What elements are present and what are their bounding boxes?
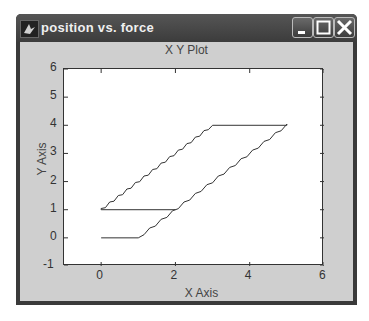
y-tick-label: 0 [50, 229, 57, 243]
window-title: position vs. force [41, 20, 154, 35]
plot-axes[interactable] [63, 68, 323, 265]
close-icon [335, 18, 354, 37]
x-tick-label: 2 [170, 268, 177, 282]
x-tick-label: 4 [245, 268, 252, 282]
y-axis-label: Y Axis [35, 129, 49, 189]
y-tick-label: 6 [50, 60, 57, 74]
maximize-button[interactable] [313, 17, 334, 38]
x-tick-label: 6 [319, 268, 326, 282]
plot-title: X Y Plot [20, 43, 353, 57]
plot-canvas [64, 69, 324, 266]
y-tick-label: 1 [50, 201, 57, 215]
matlab-figure-icon [20, 20, 39, 38]
y-tick-label: 2 [50, 173, 57, 187]
close-button[interactable] [334, 17, 355, 38]
y-tick-label: 4 [50, 116, 57, 130]
x-tick-label: 0 [96, 268, 103, 282]
minimize-icon [293, 18, 312, 37]
y-tick-label: -1 [43, 257, 54, 271]
figure-window: position vs. force X Y Plot -10123456 02… [16, 14, 357, 305]
title-bar[interactable]: position vs. force [16, 14, 357, 42]
x-axis-label: X Axis [20, 286, 353, 300]
minimize-button[interactable] [292, 17, 313, 38]
y-tick-label: 3 [50, 144, 57, 158]
figure-client-area: X Y Plot -10123456 0246 Y Axis X Axis [20, 42, 353, 301]
maximize-icon [314, 18, 333, 37]
y-tick-label: 5 [50, 88, 57, 102]
